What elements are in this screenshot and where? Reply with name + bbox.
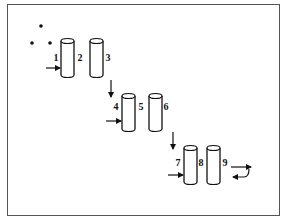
- column-label: 6: [164, 101, 169, 112]
- column-1: 1: [54, 39, 75, 78]
- column-stages: 123456789: [46, 39, 228, 185]
- column-8: 89: [199, 146, 228, 185]
- stage-group: 456: [106, 94, 169, 132]
- column-7: 7: [176, 146, 198, 185]
- dot: [39, 24, 43, 28]
- column-label: 4: [114, 101, 119, 112]
- recycle-arrows: [231, 167, 251, 177]
- stage-group: 789: [168, 146, 228, 185]
- column-label: 7: [176, 157, 181, 168]
- column-2: 23: [78, 39, 111, 78]
- column-label: 9: [223, 157, 228, 168]
- column-label: 2: [78, 52, 83, 63]
- column-label: 3: [106, 52, 111, 63]
- process-diagram: 123456789: [0, 0, 285, 222]
- column-label: 1: [54, 52, 59, 63]
- return-arrow-icon: [233, 169, 249, 177]
- column-4: 4: [114, 94, 136, 132]
- dot: [48, 41, 52, 45]
- stage-group: 123: [46, 39, 111, 78]
- dot: [30, 41, 34, 45]
- column-5: 56: [139, 94, 169, 132]
- column-label: 5: [139, 101, 144, 112]
- column-label: 8: [199, 157, 204, 168]
- transfer-arrows: [111, 80, 173, 149]
- ellipsis-dots: [30, 24, 52, 45]
